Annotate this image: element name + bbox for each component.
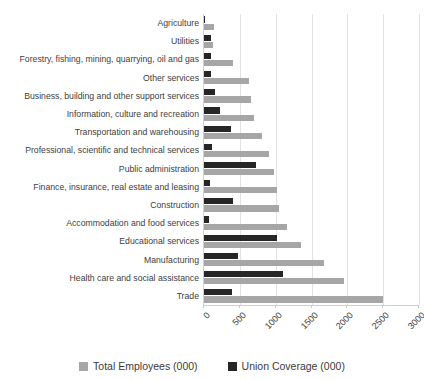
chart-legend: Total Employees (000)Union Coverage (000… <box>0 356 424 376</box>
legend-label: Union Coverage (000) <box>242 360 345 372</box>
bar-total-employees <box>204 42 213 48</box>
bar-union-coverage <box>204 162 256 168</box>
bar-union-coverage <box>204 289 232 295</box>
category-label: Trade <box>0 291 199 301</box>
category-label: Health care and social assistance <box>0 273 199 283</box>
plot-area <box>203 14 418 305</box>
bar-union-coverage <box>204 216 209 222</box>
bar-union-coverage <box>204 235 277 241</box>
bar-total-employees <box>204 169 274 175</box>
category-label: Business, building and other support ser… <box>0 91 199 101</box>
bar-union-coverage <box>204 53 211 59</box>
x-tick-mark <box>275 305 276 308</box>
bar-total-employees <box>204 205 279 211</box>
x-tick-mark <box>418 305 419 308</box>
bar-total-employees <box>204 224 287 230</box>
bar-union-coverage <box>204 271 283 277</box>
gridline <box>419 14 420 305</box>
bar-total-employees <box>204 296 383 302</box>
category-label: Agriculture <box>0 18 199 28</box>
category-label: Utilities <box>0 36 199 46</box>
category-label: Information, culture and recreation <box>0 109 199 119</box>
x-tick-mark <box>239 305 240 308</box>
bar-total-employees <box>204 96 251 102</box>
legend-swatch-icon <box>228 362 237 371</box>
gridline <box>347 14 348 305</box>
legend-item[interactable]: Total Employees (000) <box>79 360 197 372</box>
x-tick-mark <box>346 305 347 308</box>
category-label: Finance, insurance, real estate and leas… <box>0 182 199 192</box>
bar-total-employees <box>204 151 269 157</box>
bar-union-coverage <box>204 35 211 41</box>
bar-union-coverage <box>204 126 231 132</box>
bar-total-employees <box>204 60 233 66</box>
category-label: Professional, scientific and technical s… <box>0 145 199 155</box>
bar-total-employees <box>204 78 249 84</box>
bar-total-employees <box>204 260 324 266</box>
bar-total-employees <box>204 242 301 248</box>
category-label: Forestry, fishing, mining, quarrying, oi… <box>0 54 199 64</box>
category-label: Transportation and warehousing <box>0 127 199 137</box>
bar-union-coverage <box>204 198 233 204</box>
chart-title <box>0 0 424 6</box>
x-tick-mark <box>382 305 383 308</box>
category-label: Manufacturing <box>0 255 199 265</box>
bar-union-coverage <box>204 180 210 186</box>
bar-union-coverage <box>204 107 220 113</box>
bar-total-employees <box>204 24 214 30</box>
category-label: Public administration <box>0 164 199 174</box>
category-label: Construction <box>0 200 199 210</box>
category-label: Educational services <box>0 236 199 246</box>
bar-total-employees <box>204 187 277 193</box>
bar-union-coverage <box>204 144 212 150</box>
category-axis-labels: AgricultureUtilitiesForestry, fishing, m… <box>0 14 199 305</box>
bar-total-employees <box>204 278 344 284</box>
bar-union-coverage <box>204 71 211 77</box>
bar-total-employees <box>204 133 262 139</box>
legend-item[interactable]: Union Coverage (000) <box>228 360 345 372</box>
legend-label: Total Employees (000) <box>93 360 197 372</box>
x-tick-mark <box>203 305 204 308</box>
bar-union-coverage <box>204 253 238 259</box>
bar-total-employees <box>204 115 254 121</box>
legend-swatch-icon <box>79 362 88 371</box>
x-tick-mark <box>311 305 312 308</box>
bar-union-coverage <box>204 89 215 95</box>
category-label: Accommodation and food services <box>0 218 199 228</box>
bar-union-coverage <box>204 16 205 22</box>
gridline <box>383 14 384 305</box>
bar-chart: AgricultureUtilitiesForestry, fishing, m… <box>0 0 424 380</box>
category-label: Other services <box>0 73 199 83</box>
